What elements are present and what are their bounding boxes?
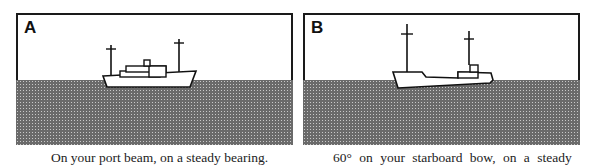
panel-b: B — [303, 13, 580, 145]
ship-beam-view-icon — [16, 13, 293, 145]
ship-bow-view-icon — [303, 13, 580, 145]
caption-a: On your port beam, on a steady bearing. — [51, 150, 268, 166]
caption-b: 60° on your starboard bow, on a steady — [333, 150, 572, 166]
panel-a: A — [16, 13, 293, 145]
